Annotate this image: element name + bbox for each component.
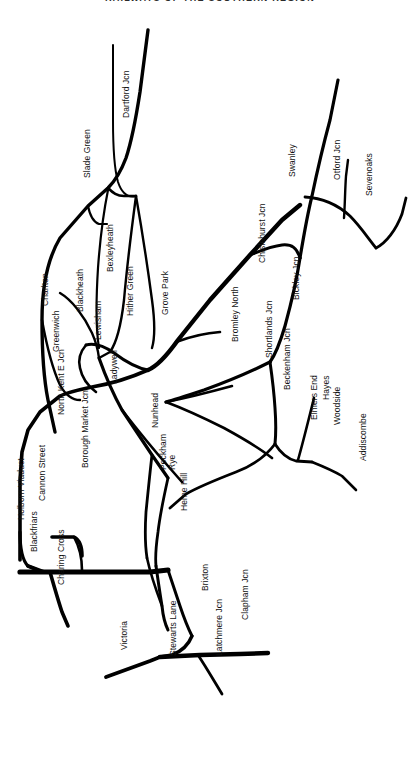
station-label-bexleyheath: Bexleyheath [106, 224, 115, 272]
station-label-grove-park: Grove Park [161, 271, 170, 315]
railway-line-woodside-addiscombe [312, 462, 356, 490]
station-label-holborn-viaduct: Holborn Viaduct [17, 458, 26, 520]
railway-line-nunhead-peckham [145, 455, 152, 558]
station-label-stewarts-lane: Stewarts Lane [169, 600, 178, 656]
railway-line-otford-branch [344, 160, 348, 218]
station-label-sevenoaks: Sevenoaks [365, 153, 374, 196]
station-label-otford-jcn: Otford Jcn [333, 140, 342, 180]
station-label-cannon-street: Cannon Street [38, 445, 47, 501]
station-label-brixton: Brixton [201, 564, 210, 591]
railway-line-nunhead-shortlands [166, 402, 272, 458]
station-label-beckenham-jcn: Beckenham Jcn [283, 328, 292, 390]
station-label-latchmere-jcn: Latchmere Jcn [215, 599, 224, 656]
station-label-clapham-jcn: Clapham Jcn [241, 569, 250, 620]
station-label-swanley: Swanley [288, 144, 297, 177]
railway-line-shortlands-west [166, 362, 270, 402]
station-label-elmers-end: Elmers End [310, 375, 319, 420]
station-label-north-kent-e-jcn: North Kent E Jcn [57, 349, 66, 415]
railway-map: RAILWAYS OF THE SOUTHERN REGION Dartford… [0, 0, 420, 770]
station-label-blackfriars: Blackfriars [30, 511, 39, 552]
station-label-hayes: Hayes [322, 375, 331, 400]
track-layer [20, 30, 406, 694]
station-label-bickley-jcn: Bickley Jcn [292, 256, 301, 300]
station-label-chislehurst-jcn: Chislehurst Jcn [258, 203, 267, 263]
station-label-addiscombe: Addiscombe [359, 413, 368, 461]
station-label-charing-cross: Charing Cross [57, 529, 66, 585]
railway-line-sevenoaks-out [376, 198, 406, 248]
station-label-greenwich: Greenwich [52, 310, 61, 352]
station-label-blackheath: Blackheath [76, 269, 85, 312]
station-label-lewisham: Lewisham [94, 301, 103, 340]
railway-line-swanley-sevenoaks [305, 197, 376, 248]
station-label-dartford-jcn: Dartford Jcn [122, 71, 131, 119]
railway-line-dartford-up [113, 45, 136, 196]
railway-line-victoria-line [106, 657, 160, 677]
station-label-peckham-rye: Peckham Rye [159, 434, 177, 470]
railway-line-bromley-long [166, 386, 232, 402]
station-label-slade-green: Slade Green [83, 129, 92, 178]
railway-line-beckenham-elmers [275, 444, 312, 462]
station-label-shortlands-jcn: Shortlands Jcn [265, 300, 274, 358]
railway-line-shortlands-beckenham [270, 362, 276, 444]
station-label-victoria: Victoria [120, 621, 129, 650]
railway-line-latchmere-spur [198, 655, 222, 694]
station-label-bromley-north: Bromley North [231, 286, 240, 342]
station-label-charlton: Charlton [41, 273, 50, 306]
station-label-herne-hill: Herne Hill [180, 473, 189, 511]
station-label-woodside: Woodside [333, 387, 342, 425]
station-label-borough-market-jcn: Borough Market Jcn [81, 390, 90, 468]
station-label-ladywell: Ladywell [110, 350, 119, 384]
railway-line-peckham-herne [156, 478, 168, 566]
railway-line-hither-green-branch [136, 196, 154, 348]
station-label-hither-green: Hither Green [126, 266, 135, 316]
station-label-nunhead: Nunhead [151, 393, 160, 428]
